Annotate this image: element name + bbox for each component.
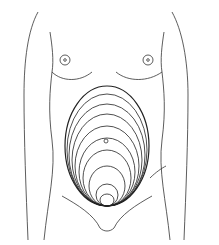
left-torso-outline bbox=[44, 32, 53, 240]
right-arm-outline bbox=[172, 12, 188, 240]
right-hip-line bbox=[150, 166, 166, 178]
right-torso-outline bbox=[161, 32, 170, 240]
fundal-ellipses bbox=[65, 86, 149, 206]
left-nipple bbox=[60, 55, 70, 65]
fundal-height-diagram bbox=[0, 0, 219, 245]
right-groin-line bbox=[114, 196, 152, 228]
right-breast-outline bbox=[116, 72, 162, 80]
left-arm-outline bbox=[24, 12, 38, 240]
pubic-line bbox=[100, 228, 114, 231]
right-nipple-center bbox=[147, 59, 150, 62]
left-nipple-center bbox=[64, 59, 67, 62]
left-groin-line bbox=[62, 196, 100, 228]
right-nipple bbox=[143, 55, 153, 65]
left-breast-outline bbox=[52, 72, 92, 80]
umbilicus-marker bbox=[104, 139, 108, 143]
